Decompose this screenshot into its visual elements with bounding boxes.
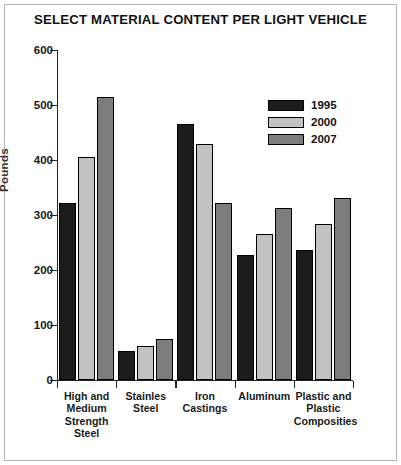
bar-2007[interactable] [334,198,351,380]
bar-1995[interactable] [59,203,76,380]
category-separator [235,381,236,388]
bar-2007[interactable] [275,208,292,380]
bar-group [116,50,175,380]
chart-legend: 199520002007 [268,99,337,145]
bar-2007[interactable] [97,97,114,380]
category-separator [116,381,117,388]
category-label: Aluminum [235,390,294,402]
category-label-line: Stainles [116,390,175,402]
x-axis-line [57,380,353,381]
legend-swatch [268,117,304,128]
category-separator [175,381,176,388]
bar-1995[interactable] [118,351,135,380]
category-label-line: Steel [57,427,116,439]
legend-label: 1995 [311,99,337,111]
category-label-line: Composities [294,415,353,427]
legend-item-2007[interactable]: 2007 [268,133,337,145]
bar-2000[interactable] [137,346,154,380]
bar-group [57,50,116,380]
legend-item-2000[interactable]: 2000 [268,116,337,128]
category-label-line: Plastic [294,402,353,414]
legend-label: 2000 [311,116,337,128]
category-separator-end [353,381,354,388]
y-axis-tick-label: 400 [34,154,53,166]
bar-group-bars [57,50,116,380]
y-axis-tick-label: 0 [47,374,53,386]
y-axis-tick-label: 200 [34,264,53,276]
category-label-line: Steel [116,402,175,414]
y-axis-label: Pounds [0,148,10,192]
category-label-line: High and [57,390,116,402]
category-label-line: Medium [57,402,116,414]
legend-item-1995[interactable]: 1995 [268,99,337,111]
category-label: IronCastings [175,390,234,415]
chart-figure: SELECT MATERIAL CONTENT PER LIGHT VEHICL… [0,0,401,465]
category-label-line: Plastic and [294,390,353,402]
category-separator-end [57,381,58,388]
y-axis-tick-label: 300 [34,209,53,221]
bar-1995[interactable] [177,124,194,380]
legend-swatch [268,100,304,111]
bar-group [175,50,234,380]
bar-2000[interactable] [315,224,332,380]
category-label: StainlesSteel [116,390,175,415]
bar-group-bars [175,50,234,380]
bar-2000[interactable] [256,234,273,380]
category-separator [294,381,295,388]
category-label-line: Iron [175,390,234,402]
y-axis-tick-label: 600 [34,44,53,56]
legend-label: 2007 [311,133,337,145]
legend-swatch [268,134,304,145]
category-label-line: Castings [175,402,234,414]
category-label: High andMediumStrengthSteel [57,390,116,440]
chart-title: SELECT MATERIAL CONTENT PER LIGHT VEHICL… [0,12,401,27]
bar-group-bars [116,50,175,380]
category-label: Plastic andPlasticComposities [294,390,353,427]
bar-2000[interactable] [78,157,95,380]
bar-1995[interactable] [237,255,254,380]
y-axis-tick-label: 100 [34,319,53,331]
bar-2007[interactable] [215,203,232,380]
bar-1995[interactable] [296,250,313,380]
category-label-line: Strength [57,415,116,427]
bar-2007[interactable] [156,339,173,380]
y-axis-tick-label: 500 [34,99,53,111]
category-label-line: Aluminum [235,390,294,402]
bar-2000[interactable] [196,144,213,381]
